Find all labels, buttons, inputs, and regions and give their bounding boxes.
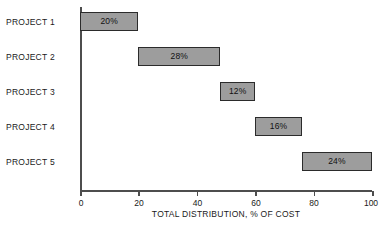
plot-area: 0 20 40 60 80 100 20% 28% 12% 16% 24% <box>80 7 372 190</box>
x-tick-label-100: 100 <box>364 198 378 208</box>
bar-value-project-4: 16% <box>270 122 288 131</box>
x-tick-label-60: 60 <box>251 198 260 208</box>
x-tick-label-20: 20 <box>134 198 143 208</box>
x-tick-40 <box>197 191 199 196</box>
category-label-project-4: PROJECT 4 <box>6 122 55 132</box>
bar-project-4: 16% <box>255 117 302 136</box>
bar-project-2: 28% <box>138 47 220 66</box>
x-axis-title: TOTAL DISTRIBUTION, % OF COST <box>80 209 372 219</box>
bar-value-project-1: 20% <box>100 17 118 26</box>
y-axis-line <box>80 7 82 190</box>
x-tick-100 <box>372 191 374 196</box>
x-tick-20 <box>138 191 140 196</box>
category-label-project-5: PROJECT 5 <box>6 157 55 167</box>
bar-value-project-5: 24% <box>328 157 346 166</box>
waterfall-bar-chart: PROJECT 1 PROJECT 2 PROJECT 3 PROJECT 4 … <box>0 0 390 231</box>
bar-project-3: 12% <box>220 82 255 101</box>
category-label-project-2: PROJECT 2 <box>6 52 55 62</box>
x-axis-line <box>80 190 372 192</box>
bar-project-1: 20% <box>80 12 138 31</box>
bar-project-5: 24% <box>302 152 372 171</box>
category-label-project-1: PROJECT 1 <box>6 17 55 27</box>
x-tick-label-40: 40 <box>193 198 202 208</box>
category-label-project-3: PROJECT 3 <box>6 87 55 97</box>
x-tick-80 <box>314 191 316 196</box>
x-tick-label-0: 0 <box>79 198 84 208</box>
bar-value-project-3: 12% <box>229 87 247 96</box>
x-tick-0 <box>80 191 82 196</box>
x-tick-60 <box>255 191 257 196</box>
bar-value-project-2: 28% <box>170 52 188 61</box>
x-tick-label-80: 80 <box>309 198 318 208</box>
